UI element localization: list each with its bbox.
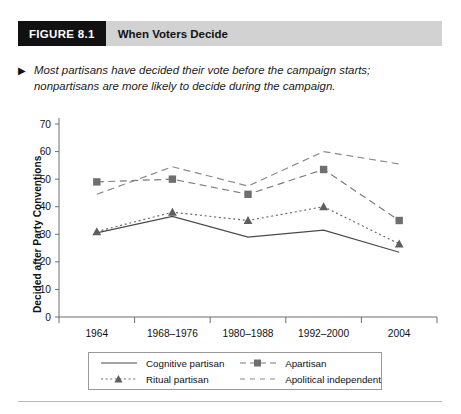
- legend-label: Cognitive partisan: [146, 358, 224, 369]
- legend-label: Apartisan: [285, 358, 326, 369]
- figure-header: FIGURE 8.1 When Voters Decide: [18, 21, 442, 46]
- y-tick-label: 0: [45, 312, 51, 323]
- y-tick-label: 20: [40, 256, 52, 267]
- y-tick-label: 10: [40, 284, 52, 295]
- figure-container: FIGURE 8.1 When Voters Decide ▶ Most par…: [0, 0, 461, 414]
- figure-caption: ▶ Most partisans have decided their vote…: [18, 62, 438, 94]
- series-line-apolitical-independent: [97, 152, 399, 195]
- data-point-square: [169, 175, 176, 182]
- data-point-triangle: [168, 208, 177, 216]
- data-point-square: [93, 178, 100, 185]
- y-tick-label: 50: [40, 174, 52, 185]
- legend-key-dotted-triangle-icon: [99, 373, 139, 385]
- x-tick-label: 1992–2000: [298, 328, 349, 339]
- y-tick-label: 70: [40, 119, 52, 130]
- line-chart-svg: 01020304050607019641968–19761980–1988199…: [18, 112, 442, 352]
- legend-item-cognitive-partisan: Cognitive partisan: [89, 357, 228, 369]
- legend-item-ritual-partisan: Ritual partisan: [89, 373, 228, 385]
- data-point-square: [396, 217, 403, 224]
- legend-key-dashed-line-icon: [238, 373, 278, 385]
- x-tick-label: 2004: [388, 328, 411, 339]
- figure-title: When Voters Decide: [106, 21, 442, 46]
- legend-label: Apolitical independent: [285, 374, 381, 385]
- data-point-triangle: [244, 216, 253, 224]
- triangle-bullet-icon: ▶: [18, 62, 26, 94]
- legend-item-apartisan: Apartisan: [228, 357, 381, 369]
- caption-text: Most partisans have decided their vote b…: [34, 62, 438, 94]
- x-tick-label: 1964: [85, 328, 108, 339]
- figure-number-tag: FIGURE 8.1: [18, 21, 106, 46]
- y-tick-label: 40: [40, 201, 52, 212]
- data-point-triangle: [395, 240, 404, 248]
- chart-plot-area: 01020304050607019641968–19761980–1988199…: [18, 112, 442, 352]
- legend-item-apolitical-independent: Apolitical independent: [228, 373, 381, 385]
- data-point-square: [320, 166, 327, 173]
- y-tick-label: 30: [40, 229, 52, 240]
- x-tick-label: 1980–1988: [223, 328, 274, 339]
- x-tick-label: 1968–1976: [147, 328, 198, 339]
- legend-label: Ritual partisan: [146, 374, 209, 385]
- legend-key-solid-line-icon: [99, 357, 139, 369]
- bottom-divider: [18, 401, 442, 402]
- data-point-triangle: [92, 227, 101, 235]
- y-tick-label: 60: [40, 146, 52, 157]
- chart-legend: Cognitive partisan Apartisan Ritual part…: [88, 352, 382, 390]
- legend-key-dashed-square-icon: [238, 357, 278, 369]
- data-point-triangle: [319, 202, 328, 210]
- data-point-square: [244, 191, 251, 198]
